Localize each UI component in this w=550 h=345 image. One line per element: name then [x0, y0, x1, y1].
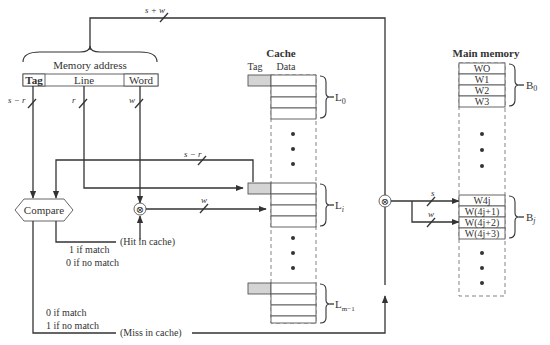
mux-to-W4j2	[412, 201, 459, 222]
cache-line-Li: Li	[248, 183, 344, 227]
label-L0: L0	[335, 91, 346, 106]
compare-unit: Compare	[15, 199, 73, 221]
compare-label: Compare	[24, 204, 64, 216]
miss-label: (Miss in cache)	[120, 327, 182, 339]
label-Bj: Bj	[526, 211, 536, 225]
hit-cond-1: 1 if match	[69, 244, 110, 255]
cache-col-data: Data	[277, 61, 296, 72]
field-word: Word	[129, 74, 154, 86]
label-Li: Li	[335, 199, 344, 214]
cache-line-L0: L0	[248, 75, 346, 119]
hit-cond-2: 0 if no match	[66, 257, 119, 268]
hit-label: (Hit in cache)	[120, 236, 175, 248]
cache-col-tag: Tag	[248, 61, 263, 72]
word-W0: WO	[474, 63, 491, 74]
bus-w-label: w	[428, 209, 434, 219]
memory-address-fields: Tag Line Word	[23, 74, 158, 86]
tag-width-label: s − r	[8, 95, 26, 105]
word-W4j3: W(4j+3)	[465, 228, 500, 240]
mux-symbol: ⊗	[136, 204, 144, 215]
word-W3: W3	[475, 96, 489, 107]
block-Bj: W4j W(4j+1) W(4j+2) W(4j+3) Bj	[459, 195, 536, 240]
miss-cond-1: 0 if match	[46, 307, 87, 318]
bus-s-label: s	[431, 188, 435, 198]
hit-path	[56, 221, 116, 242]
miss-cond-2: 1 if no match	[46, 320, 99, 331]
memory-ellipsis-1	[480, 132, 484, 168]
cache-ellipsis-2	[291, 236, 295, 270]
word-width-label: w	[129, 95, 135, 105]
cache-title: Cache	[266, 47, 295, 59]
memory-mux: ⊗	[379, 195, 391, 207]
block-B0: WO W1 W2 W3 B0	[459, 63, 537, 107]
top-bus-label: s + w	[145, 5, 165, 15]
label-B0: B0	[526, 79, 537, 93]
cache-tag-bus-label: s − r	[184, 149, 202, 159]
field-line: Line	[74, 74, 94, 86]
main-memory-title: Main memory	[453, 47, 520, 59]
memory-mux-symbol: ⊗	[381, 196, 389, 207]
line-width-label: r	[72, 95, 76, 105]
memory-address-title: Memory address	[53, 59, 127, 71]
word-W2: W2	[475, 85, 489, 96]
memory-ellipsis-2	[480, 251, 484, 285]
cache-line-Lm-1: Lm−1	[248, 283, 355, 323]
line-select-path	[84, 86, 243, 188]
cache-diagram: s + w Memory address Tag Line Word s − r…	[0, 0, 550, 345]
word-W1: W1	[475, 74, 489, 85]
word-W4j: W4j	[473, 195, 490, 206]
field-tag: Tag	[25, 74, 43, 86]
cache-ellipsis-1	[291, 132, 295, 166]
label-Lm-1: Lm−1	[335, 298, 355, 313]
cache-tag-to-compare	[56, 160, 253, 198]
cache-mux: ⊗	[134, 203, 146, 215]
mux-word-label: w	[201, 195, 207, 205]
